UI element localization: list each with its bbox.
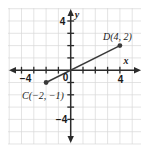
plot-area: −4 4 4 −4 0 x y D(4, 2) C(−2, −1) (0, 0, 149, 152)
coordinate-plane-figure: −4 4 4 −4 0 x y D(4, 2) C(−2, −1) (0, 0, 149, 152)
x-axis-label: x (123, 55, 129, 66)
x-tick-label-4: 4 (118, 74, 124, 85)
y-axis-label: y (74, 9, 80, 20)
y-tick-label-neg4: −4 (56, 114, 68, 125)
point-c-label: C(−2, −1) (22, 90, 64, 102)
point-d-marker (118, 43, 123, 48)
point-c-marker (44, 80, 49, 85)
x-tick-label-neg4: −4 (20, 73, 32, 84)
point-d-label: D(4, 2) (102, 31, 133, 43)
origin-label: 0 (63, 72, 69, 83)
coordinate-plane-svg: −4 4 4 −4 0 x y D(4, 2) C(−2, −1) (0, 0, 149, 152)
y-tick-label-4: 4 (60, 16, 66, 27)
